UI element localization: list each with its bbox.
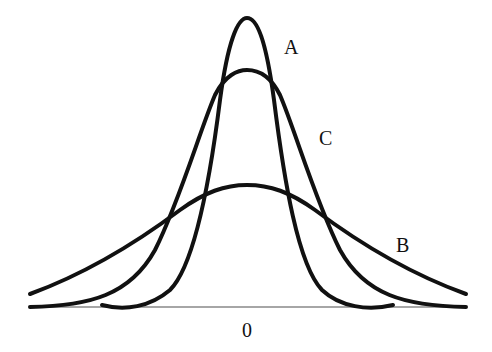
kurtosis-diagram: A C B 0 (0, 0, 492, 352)
axis-center-label: 0 (242, 319, 252, 341)
curve-a-label: A (284, 36, 299, 58)
curve-b-label: B (396, 234, 409, 256)
curve-c-label: C (319, 127, 332, 149)
curve-c (30, 70, 466, 307)
